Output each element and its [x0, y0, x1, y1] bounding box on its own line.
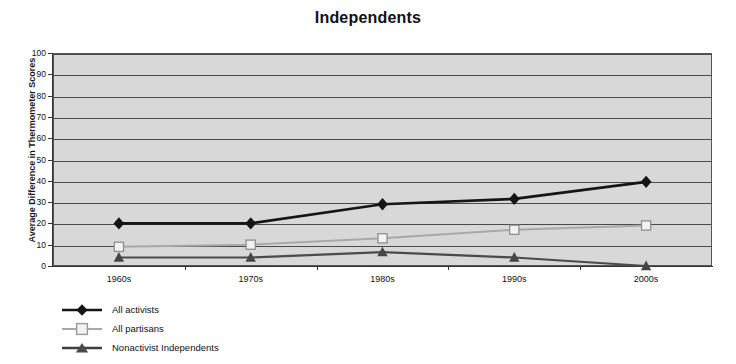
data-point-marker	[245, 217, 256, 229]
x-tick-label: 1990s	[502, 274, 527, 284]
y-tick-label: 20	[37, 218, 46, 228]
y-tick-label: 90	[37, 69, 46, 79]
y-tick-label: 50	[37, 155, 46, 165]
x-tick-label: 1970s	[238, 274, 263, 284]
y-axis-ticks: 1009080706050403020100	[0, 53, 52, 266]
chart-figure: Independents Average Difference in Therm…	[0, 0, 736, 364]
chart-title: Independents	[0, 9, 736, 27]
legend-marker-filled-triangle	[60, 340, 104, 356]
data-point-marker	[641, 176, 652, 188]
x-axis-line	[52, 266, 713, 267]
chart-legend: All activists All partisans Nonactivist …	[60, 300, 420, 357]
data-point-marker	[246, 240, 255, 249]
x-tick-label: 1960s	[107, 274, 132, 284]
data-point-marker	[510, 225, 519, 234]
x-tick-mark	[317, 266, 318, 270]
legend-item-nonactivist-independents[interactable]: Nonactivist Independents	[60, 338, 420, 357]
y-tick-label: 80	[37, 91, 46, 101]
series-layer	[53, 53, 712, 266]
y-tick-label: 60	[37, 133, 46, 143]
data-point-marker	[114, 217, 125, 229]
y-tick-label: 0	[41, 261, 46, 271]
data-point-marker	[509, 193, 520, 205]
legend-label: All partisans	[112, 323, 164, 334]
x-tick-label: 1980s	[370, 274, 395, 284]
x-tick-mark	[185, 266, 186, 270]
legend-item-all-partisans[interactable]: All partisans	[60, 319, 420, 338]
y-tick-label: 100	[32, 48, 46, 58]
x-tick-mark	[580, 266, 581, 270]
x-tick-label: 2000s	[634, 274, 659, 284]
legend-label: Nonactivist Independents	[112, 342, 219, 353]
y-tick-label: 30	[37, 197, 46, 207]
y-tick-label: 70	[37, 112, 46, 122]
legend-label: All activists	[112, 304, 159, 315]
y-tick-label: 40	[37, 176, 46, 186]
data-point-marker	[114, 242, 123, 251]
x-tick-mark	[448, 266, 449, 270]
data-point-marker	[642, 221, 651, 230]
legend-item-all-activists[interactable]: All activists	[60, 300, 420, 319]
y-tick-label: 10	[37, 240, 46, 250]
data-point-marker	[377, 198, 388, 210]
legend-marker-open-square	[60, 321, 104, 337]
legend-marker-filled-diamond	[60, 302, 104, 318]
data-point-marker	[378, 234, 387, 243]
